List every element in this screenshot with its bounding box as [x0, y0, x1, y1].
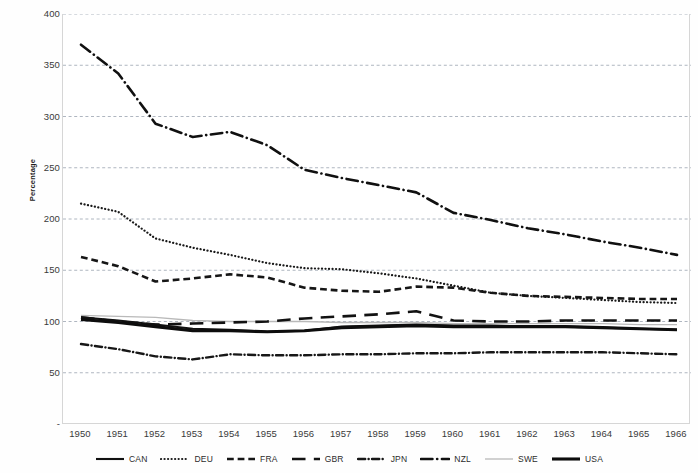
- series-line-jpn: [81, 344, 677, 359]
- legend-swatch-fra-icon: [226, 454, 256, 464]
- legend-swatch-gbr-icon: [291, 454, 321, 464]
- plot-area: [62, 14, 690, 424]
- legend-item-swe[interactable]: SWE: [484, 451, 538, 467]
- series-line-nzl: [81, 45, 677, 255]
- y-axis-tick-labels: -50100150200250300350400: [18, 0, 60, 473]
- legend-item-fra[interactable]: FRA: [226, 451, 278, 467]
- legend-swatch-jpn-icon: [357, 454, 387, 464]
- legend-label-nzl: NZL: [454, 454, 471, 464]
- y-tick-250: 250: [20, 163, 60, 173]
- chart-legend: CANDEUFRAGBRJPNNZLSWEUSA: [0, 450, 698, 468]
- legend-item-nzl[interactable]: NZL: [420, 451, 471, 467]
- plot-svg: [63, 14, 691, 424]
- legend-label-swe: SWE: [518, 454, 538, 464]
- legend-swatch-nzl-icon: [420, 454, 450, 464]
- y-tick-150: 150: [20, 265, 60, 275]
- legend-label-gbr: GBR: [325, 454, 344, 464]
- x-axis-tick-labels: 1950195119521953195419551956195719581959…: [62, 428, 690, 444]
- y-tick-200: 200: [20, 214, 60, 224]
- legend-item-deu[interactable]: DEU: [160, 451, 213, 467]
- x-tick-1966: 1966: [653, 428, 698, 439]
- legend-item-usa[interactable]: USA: [551, 451, 603, 467]
- legend-item-can[interactable]: CAN: [95, 451, 148, 467]
- legend-item-gbr[interactable]: GBR: [291, 451, 344, 467]
- line-chart: Percentage -50100150200250300350400 1950…: [0, 0, 698, 473]
- series-line-fra: [81, 257, 677, 299]
- y-tick-300: 300: [20, 112, 60, 122]
- legend-swatch-swe-icon: [484, 454, 514, 464]
- y-tick-100: 100: [20, 317, 60, 327]
- series-line-deu: [81, 204, 677, 303]
- legend-label-can: CAN: [129, 454, 148, 464]
- legend-label-usa: USA: [585, 454, 603, 464]
- y-tick-50: 50: [20, 368, 60, 378]
- legend-swatch-can-icon: [95, 454, 125, 464]
- legend-label-fra: FRA: [260, 454, 278, 464]
- legend-label-deu: DEU: [194, 454, 213, 464]
- legend-label-jpn: JPN: [391, 454, 408, 464]
- y-tick-0: -: [20, 419, 60, 429]
- y-tick-350: 350: [20, 60, 60, 70]
- y-tick-400: 400: [20, 9, 60, 19]
- legend-item-jpn[interactable]: JPN: [357, 451, 408, 467]
- legend-swatch-usa-icon: [551, 454, 581, 464]
- legend-swatch-deu-icon: [160, 454, 190, 464]
